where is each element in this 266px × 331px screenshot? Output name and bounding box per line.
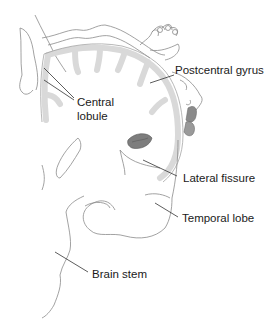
label-central-lobule-line2: lobule	[77, 110, 108, 123]
upper-lip	[186, 106, 197, 122]
diagram-artwork	[0, 0, 266, 331]
cortex-outline	[41, 44, 183, 182]
homunculus-hand	[140, 24, 179, 60]
label-central-lobule-line1: Central	[77, 96, 114, 109]
cortex	[45, 48, 178, 178]
label-lateral-fissure: Lateral fissure	[183, 172, 255, 185]
temporal-lobe-outline	[83, 194, 172, 238]
medial-outline	[42, 165, 44, 190]
medial-lobe	[56, 138, 81, 178]
lower-lip	[184, 122, 195, 136]
label-temporal-lobe: Temporal lobe	[182, 212, 254, 225]
brain-diagram: Postcentral gyrus Central lobule Lateral…	[0, 0, 266, 331]
label-postcentral-gyrus: Postcentral gyrus	[175, 64, 264, 77]
tongue	[128, 134, 152, 149]
label-brain-stem: Brain stem	[92, 268, 147, 281]
